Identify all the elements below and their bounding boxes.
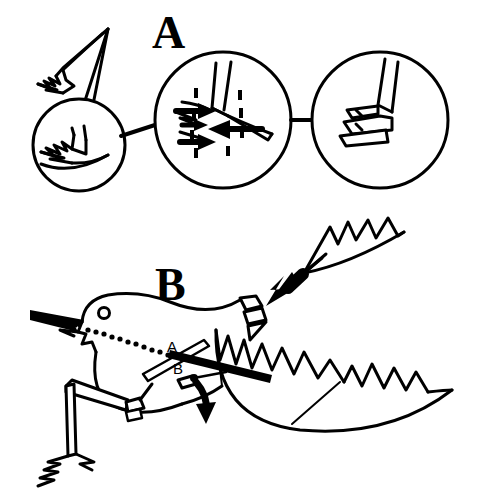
dot [149, 347, 154, 352]
panel-a-letter: A [152, 7, 185, 58]
figure-root: A [0, 0, 484, 497]
bird-leg-tarsus [66, 384, 76, 456]
magnifier-circle-2 [155, 52, 291, 188]
dot [133, 341, 138, 346]
dot [109, 334, 114, 339]
dot [85, 327, 90, 332]
circle-1-rachis-b [84, 126, 86, 140]
dot [101, 331, 106, 336]
magnifier-circle-3 [312, 52, 448, 188]
bird-eye-icon [99, 308, 110, 319]
structure-b-label: B [173, 360, 183, 377]
dot [93, 329, 98, 334]
circle-1-outline [33, 99, 125, 191]
figure-canvas: A [0, 0, 484, 497]
magnifier-circle-1 [33, 99, 125, 191]
dot [117, 336, 122, 341]
dot [125, 339, 130, 344]
circle-2-outline [155, 52, 291, 188]
bird-leg-ankle [126, 409, 142, 421]
dot [141, 344, 146, 349]
dot [157, 349, 162, 354]
